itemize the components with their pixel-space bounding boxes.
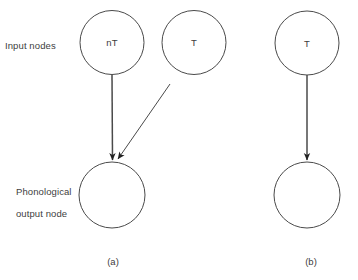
phonological-output-node-a[interactable] [79,162,145,228]
input-node-nt-label: nT [106,37,118,48]
edge-t-to-output [118,84,170,159]
figure-canvas: nT T T Input nodes Phonological output n… [0,0,358,280]
panel-b: T [274,11,340,228]
edge-nt-to-output [112,75,113,160]
row-label-phonological-output-node: Phonological output node [5,175,72,230]
panel-caption-b: (b) [291,256,331,267]
row-label-output-line2: output node [16,208,67,219]
input-node-t-b-label: T [304,38,310,49]
panel-a: nT T [79,11,226,229]
row-label-input-nodes: Input nodes [5,40,56,51]
panel-caption-a: (a) [93,256,133,267]
phonological-output-node-b[interactable] [274,162,340,228]
row-label-output-line1: Phonological [16,186,72,197]
input-node-t-label: T [191,37,197,48]
